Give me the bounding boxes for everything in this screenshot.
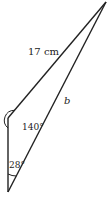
angle-arc-28 bbox=[8, 174, 16, 176]
triangle-diagram: 17 cm b 140° 28° bbox=[0, 0, 108, 210]
angle-label-140: 140° bbox=[22, 122, 44, 132]
side-label-b: b bbox=[64, 95, 70, 106]
side-label-17cm: 17 cm bbox=[28, 46, 60, 57]
angle-label-28: 28° bbox=[9, 160, 25, 170]
side-17cm bbox=[8, 2, 106, 118]
